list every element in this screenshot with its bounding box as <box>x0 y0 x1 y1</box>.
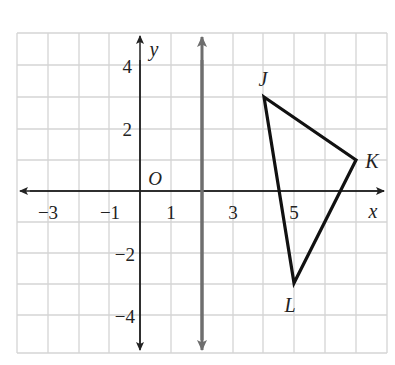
vertex-label-k: K <box>364 150 380 172</box>
vertex-label-l: L <box>283 294 295 316</box>
triangle-jkl <box>264 97 356 283</box>
x-tick-label: −1 <box>100 202 120 223</box>
y-tick-label: −2 <box>115 244 135 265</box>
vertex-label-j: J <box>259 68 269 90</box>
x-tick-label: −3 <box>38 202 58 223</box>
y-tick-label: −4 <box>115 306 136 327</box>
x-tick-label: 5 <box>289 202 299 223</box>
coordinate-plane: −3 −1 1 3 5 4 2 −2 −4 x y O J K L <box>0 0 395 365</box>
x-tick-label: 3 <box>228 202 238 223</box>
y-axis-label: y <box>148 38 159 61</box>
y-tick-label: 4 <box>123 56 133 77</box>
y-tick-label: 2 <box>123 119 133 140</box>
x-tick-label: 1 <box>166 202 176 223</box>
x-axis-label: x <box>368 200 378 222</box>
origin-label: O <box>148 168 162 189</box>
